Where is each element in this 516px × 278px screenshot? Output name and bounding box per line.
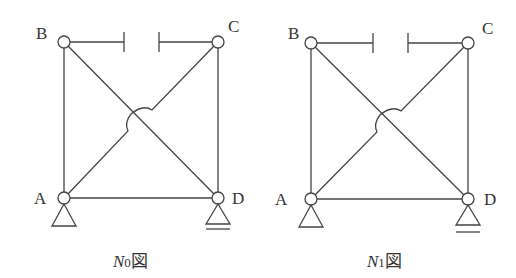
node-d: [212, 192, 224, 204]
caption-n1: N1図: [367, 253, 402, 270]
label-a: A: [34, 190, 46, 207]
frame-diagrams: [0, 0, 516, 278]
label-b: B: [36, 25, 47, 42]
caption-symbol: N: [113, 252, 124, 271]
node-a: [58, 192, 70, 204]
roller-support-d: [206, 204, 230, 224]
label-c: C: [482, 20, 493, 37]
label-d: D: [232, 190, 244, 207]
pin-support-a: [299, 205, 323, 227]
label-d: D: [484, 191, 496, 208]
node-d: [462, 193, 474, 205]
label-b: B: [288, 25, 299, 42]
caption-symbol: N: [367, 252, 378, 271]
diagram-n1: [299, 33, 480, 232]
label-a: A: [275, 191, 287, 208]
label-c: C: [228, 18, 239, 35]
diagram-n0: [52, 32, 230, 229]
node-b: [58, 36, 70, 48]
pin-support-a: [52, 204, 76, 226]
caption-suffix: 図: [385, 252, 402, 271]
node-c: [462, 37, 474, 49]
node-a: [305, 193, 317, 205]
node-c: [212, 36, 224, 48]
caption-n0: N0図: [113, 253, 148, 270]
node-b: [305, 37, 317, 49]
roller-support-d: [456, 205, 480, 225]
caption-suffix: 図: [131, 252, 148, 271]
